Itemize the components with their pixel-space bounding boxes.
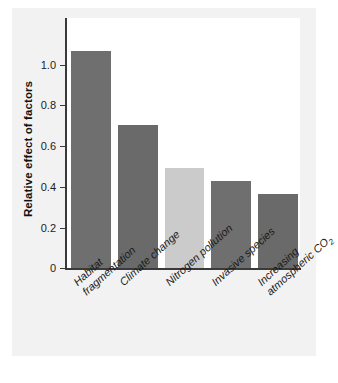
y-axis-title: Relative effect of factors — [22, 59, 34, 239]
y-tick-mark — [60, 146, 66, 147]
bar-habitat-fragmentation — [71, 51, 111, 268]
y-tick-mark — [60, 187, 66, 188]
y-tick-mark — [60, 228, 66, 229]
y-tick-mark — [60, 105, 66, 106]
y-tick-label: 0 — [18, 263, 56, 274]
y-tick-mark — [60, 65, 66, 66]
y-tick-mark — [60, 268, 66, 269]
